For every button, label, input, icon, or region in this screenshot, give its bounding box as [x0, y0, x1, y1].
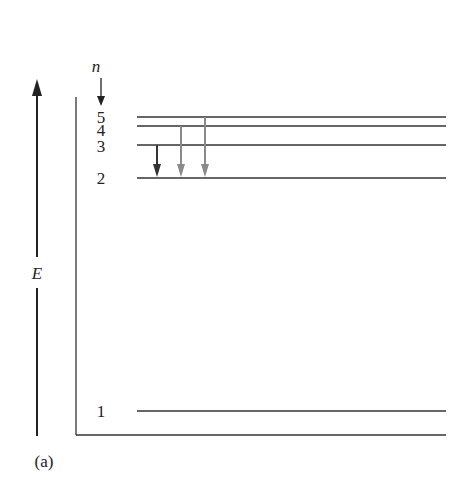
level-label-3: 3 [97, 137, 106, 156]
transition-3-to-2 [153, 145, 161, 177]
down-arrow-icon [201, 164, 209, 177]
down-arrow-icon [177, 164, 185, 177]
energy-level-diagram: n E 5 4 3 2 1 [0, 0, 473, 489]
up-arrow-icon [32, 79, 42, 96]
n-label: n [92, 57, 101, 76]
level-label-2: 2 [97, 169, 106, 188]
panel-label: (a) [35, 452, 54, 471]
energy-axis-arrow [32, 79, 42, 436]
n-down-arrow-icon [97, 78, 105, 106]
level-label-1: 1 [97, 402, 106, 421]
diagram-frame [76, 97, 446, 435]
energy-axis-label: E [31, 264, 43, 283]
down-arrow-icon [153, 164, 161, 177]
transition-4-to-2 [177, 126, 185, 177]
